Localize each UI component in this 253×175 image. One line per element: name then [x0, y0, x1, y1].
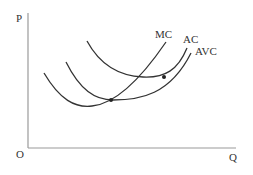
mc-label: MC [155, 29, 172, 40]
avc-min-point [109, 98, 113, 102]
avc-curve [66, 53, 191, 100]
x-axis-label: Q [229, 152, 237, 163]
ac-label: AC [183, 34, 198, 45]
ac-min-point [162, 75, 166, 79]
ac-curve [87, 41, 187, 77]
cost-curves-diagram [0, 0, 253, 175]
origin-label: O [16, 149, 24, 160]
y-axis-label: P [16, 13, 22, 24]
avc-label: AVC [195, 46, 217, 57]
mc-curve [44, 42, 166, 106]
